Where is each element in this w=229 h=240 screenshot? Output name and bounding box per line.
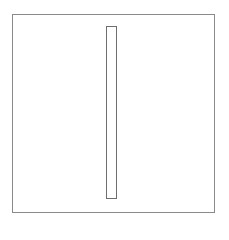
- vertical-bar: [106, 26, 117, 199]
